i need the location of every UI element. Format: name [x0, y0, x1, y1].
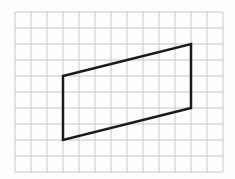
grid-diagram	[0, 0, 235, 179]
